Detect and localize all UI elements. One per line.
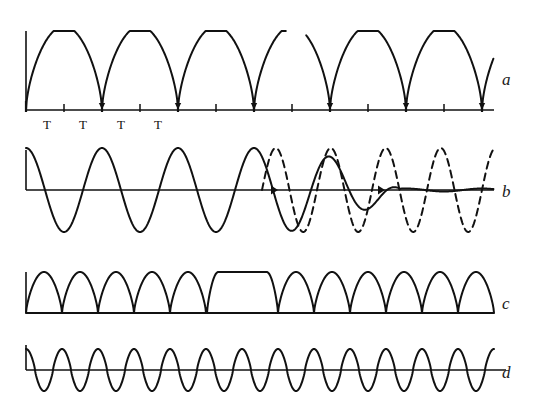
time-tick-label: T [43, 118, 51, 131]
trace-d-group [26, 345, 506, 391]
trace-a-waveform [306, 31, 493, 110]
trace-label-d: d [502, 364, 511, 381]
trace-a-arrowhead [251, 103, 257, 110]
trace-a-waveform [26, 31, 286, 110]
trace-c-waveform [26, 272, 494, 313]
time-tick-label: T [117, 118, 125, 131]
trace-a-arrowhead [99, 103, 105, 110]
time-tick-label: T [154, 118, 162, 131]
trace-a-arrowhead [327, 103, 333, 110]
trace-label-b: b [502, 183, 511, 200]
trace-b-group [26, 148, 494, 232]
time-tick-label: T [79, 118, 87, 131]
trace-a-group [26, 31, 494, 112]
trace-label-c: c [502, 295, 510, 312]
trace-a-arrowhead [175, 103, 181, 110]
trace-c-group [26, 272, 494, 313]
trace-a-arrowhead [403, 103, 409, 110]
waveform-canvas [0, 0, 539, 413]
waveform-figure: a b c d TTTT [0, 0, 539, 413]
trace-a-arrowhead [479, 103, 485, 110]
trace-label-a: a [502, 71, 511, 88]
